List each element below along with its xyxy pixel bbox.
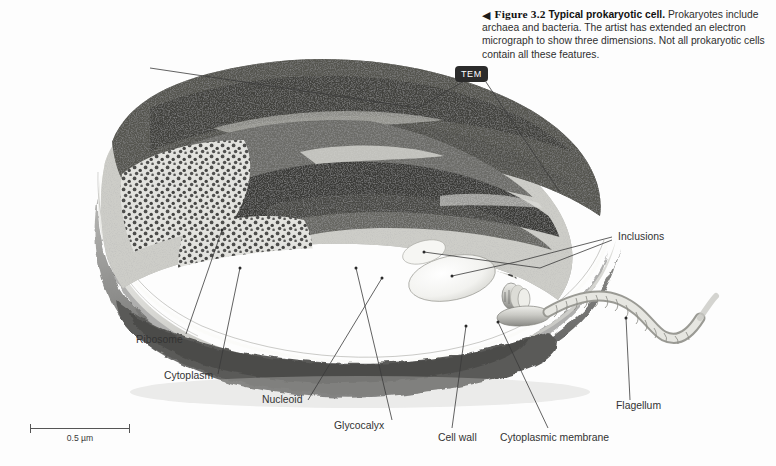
figure-title: Typical prokaryotic cell. (549, 9, 666, 20)
label-inclusions: Inclusions (618, 231, 664, 243)
label-flagellum: Flagellum (616, 400, 661, 412)
caption-arrow-icon: ◀ (482, 10, 490, 21)
ribosome-field-lower (178, 216, 313, 304)
flagellum (497, 283, 716, 344)
figure-caption: ◀Figure 3.2 Typical prokaryotic cell. Pr… (482, 8, 772, 61)
scale-bar: 0.5 µm (30, 424, 130, 446)
flagellum-hook (497, 306, 550, 326)
label-cytoplasm: Cytoplasm (164, 370, 213, 382)
leader-flagellum (626, 318, 630, 400)
tem-badge: TEM (455, 66, 488, 82)
label-ribosome: Ribosome (136, 334, 183, 346)
figure-canvas: ◀Figure 3.2 Typical prokaryotic cell. Pr… (0, 0, 776, 466)
label-cytoplasmic-membrane: Cytoplasmic membrane (500, 432, 609, 444)
label-glycocalyx: Glycocalyx (334, 420, 384, 432)
scale-bar-cap-right (129, 424, 130, 433)
scale-bar-line (30, 428, 130, 429)
label-cell-wall: Cell wall (438, 432, 477, 444)
label-nucleoid: Nucleoid (262, 394, 302, 406)
figure-number: Figure 3.2 (494, 8, 545, 20)
flagellum-basal-body (502, 283, 530, 310)
scale-bar-label: 0.5 µm (30, 433, 130, 443)
